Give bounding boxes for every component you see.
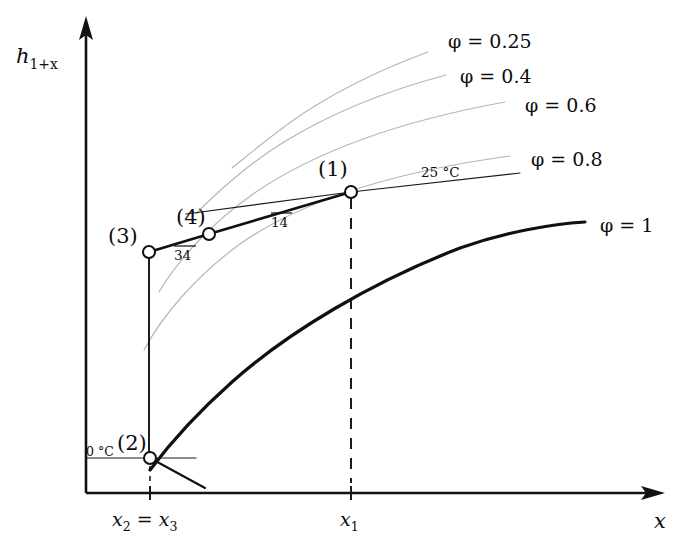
phi-curve-0.25 [232, 52, 428, 168]
state-label-4: (4) [176, 205, 206, 229]
segment-label-14: 14 [271, 214, 288, 230]
state-marker-4[interactable] [203, 228, 215, 240]
tick-x2-sub: 2 [123, 519, 131, 534]
state-marker-1[interactable] [345, 186, 357, 198]
mollier-chart-canvas: h1+x x x2 = x3 x1 φ = 0.25 φ = 0.4 φ = 0… [0, 0, 694, 558]
state-label-2: (2) [117, 431, 147, 455]
tick-x2-main: x [112, 508, 123, 530]
phi-curve-group [144, 52, 510, 350]
tick-x3-main: x [159, 508, 170, 530]
saturation-curve-phi-1 [150, 222, 585, 470]
phi-label-0.25: φ = 0.25 [448, 30, 532, 52]
state-label-3: (3) [108, 224, 138, 248]
phi-label-0.8: φ = 0.8 [531, 148, 603, 170]
tick-x3-sub: 3 [169, 519, 177, 534]
fog-line [150, 458, 205, 488]
tick-label-x1: x1 [340, 508, 359, 534]
label-group: h1+x x x2 = x3 x1 φ = 0.25 φ = 0.4 φ = 0… [16, 30, 666, 534]
phi-curve-0.8 [144, 156, 510, 350]
tick-x1-main: x [340, 508, 351, 530]
y-axis-label: h1+x [16, 44, 58, 72]
isotherm-label-0C: 0 °C [86, 444, 114, 459]
state-marker-3[interactable] [143, 246, 155, 258]
tick-eq: = [131, 508, 159, 530]
phi-label-0.6: φ = 0.6 [525, 94, 597, 116]
y-axis-label-main: h [16, 44, 30, 68]
tick-x1-sub: 1 [351, 519, 359, 534]
isotherm-label-25C: 25 °C [421, 164, 460, 180]
phi-label-0.4: φ = 0.4 [460, 65, 532, 87]
phi-curve-0.4 [196, 75, 446, 214]
x-axis-label: x [654, 509, 666, 533]
axes-group [79, 16, 665, 500]
state-label-1: (1) [318, 157, 348, 181]
y-axis-label-sub: 1+x [30, 56, 58, 72]
mollier-diagram: h1+x x x2 = x3 x1 φ = 0.25 φ = 0.4 φ = 0… [0, 0, 694, 558]
phi-label-1: φ = 1 [600, 214, 653, 236]
tick-label-x2-x3: x2 = x3 [112, 508, 177, 534]
segment-label-34: 34 [174, 247, 191, 263]
